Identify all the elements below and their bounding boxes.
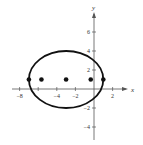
focus-point	[88, 77, 93, 82]
focus-point	[39, 77, 44, 82]
x-axis-arrow-icon	[122, 87, 128, 91]
y-tick-label: 6	[87, 29, 90, 35]
x-axis-label: x	[130, 86, 135, 94]
y-tick-label: −4	[84, 124, 90, 130]
ellipse-graph: xy −8−4−22−4−2246	[0, 0, 143, 145]
y-axis-arrow-icon	[92, 12, 96, 18]
y-tick-label: 4	[87, 48, 90, 54]
x-tick-label: 2	[111, 93, 114, 99]
y-axis-label: y	[91, 4, 96, 12]
x-tick-label: −8	[16, 93, 22, 99]
vertex-point	[101, 77, 106, 82]
x-tick-label: −2	[72, 93, 78, 99]
x-tick-label: −4	[54, 93, 60, 99]
vertex-point	[27, 77, 32, 82]
y-tick-label: 2	[87, 67, 90, 73]
center-point	[64, 77, 69, 82]
y-tick-label: −2	[84, 105, 90, 111]
